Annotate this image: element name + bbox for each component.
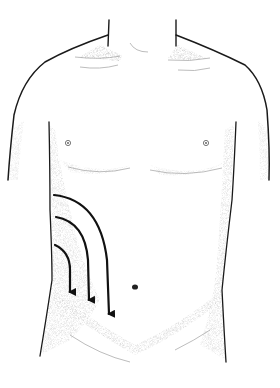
torso-illustration	[0, 0, 280, 388]
nipples	[65, 140, 208, 145]
torso-drawing	[0, 0, 280, 388]
neck-left-line	[108, 20, 109, 46]
navel	[132, 284, 138, 289]
